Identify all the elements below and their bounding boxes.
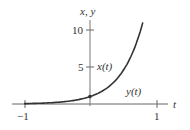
- label-x-t: x(t): [97, 61, 112, 72]
- tick-label-1: 1: [154, 111, 160, 122]
- tick-label-neg1: −1: [17, 111, 29, 122]
- tick-label-5: 5: [78, 62, 84, 73]
- label-y-t: y(t): [126, 86, 141, 97]
- y-axis-label: x, y: [80, 6, 95, 17]
- x-axis-label: t: [173, 99, 176, 110]
- chart: x, y 10 5 x(t) y(t) t −1 1: [0, 0, 190, 130]
- initial-point: [88, 95, 92, 99]
- tick-label-10: 10: [72, 25, 83, 36]
